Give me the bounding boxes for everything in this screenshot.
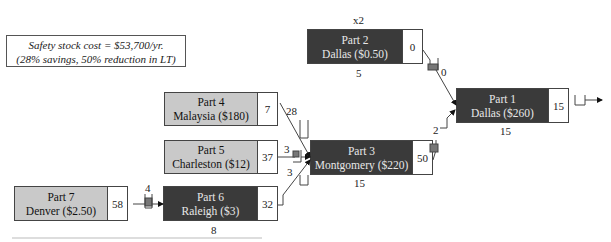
- inventory-icon: [428, 64, 438, 70]
- figure-caption-strip: [12, 237, 262, 239]
- connector-lines: [0, 0, 611, 242]
